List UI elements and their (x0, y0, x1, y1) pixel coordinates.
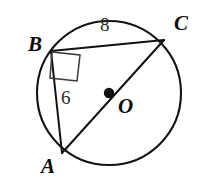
label-point-c: C (174, 13, 188, 34)
label-point-a: A (41, 156, 55, 177)
center-point-dot (104, 88, 114, 98)
label-length-bc: 8 (100, 15, 110, 34)
segment-ac-diameter (62, 40, 164, 153)
label-center-o: O (118, 96, 133, 117)
segment-bc (51, 40, 164, 51)
diagram-canvas: B C A O 8 6 (0, 0, 208, 186)
label-point-b: B (28, 34, 42, 55)
label-length-ab: 6 (61, 88, 71, 107)
